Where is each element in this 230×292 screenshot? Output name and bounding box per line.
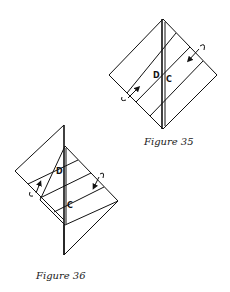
fig36-label-c: C (67, 201, 73, 210)
fig35-left-curl (122, 97, 127, 101)
diagram-canvas: D C D C (0, 0, 230, 292)
fig36-pleat-line (28, 160, 78, 184)
fig36-pleat-line (54, 187, 104, 212)
figure-36-drawing (15, 125, 118, 255)
figure-35-caption: Figure 35 (144, 136, 194, 147)
fig35-pleat-line (150, 61, 203, 116)
fig35-right-curl (200, 45, 205, 50)
figure-35-drawing (109, 19, 217, 129)
fig35-label-c: C (166, 75, 172, 84)
fig35-label-d: D (153, 71, 160, 80)
fig36-left-curl (29, 192, 33, 196)
fig35-pleat-line (136, 47, 190, 102)
figure-36-caption: Figure 36 (36, 270, 86, 281)
fig36-left-arrow-icon (36, 183, 40, 193)
fig35-pleat-line (127, 33, 176, 93)
fig36-label-d: D (56, 167, 63, 176)
fig36-right-curl (100, 173, 104, 178)
